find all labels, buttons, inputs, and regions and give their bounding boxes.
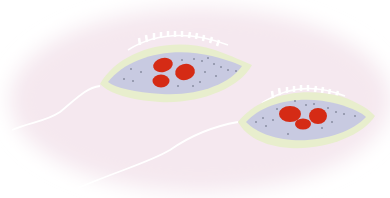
protozoa-illustration xyxy=(0,0,390,198)
